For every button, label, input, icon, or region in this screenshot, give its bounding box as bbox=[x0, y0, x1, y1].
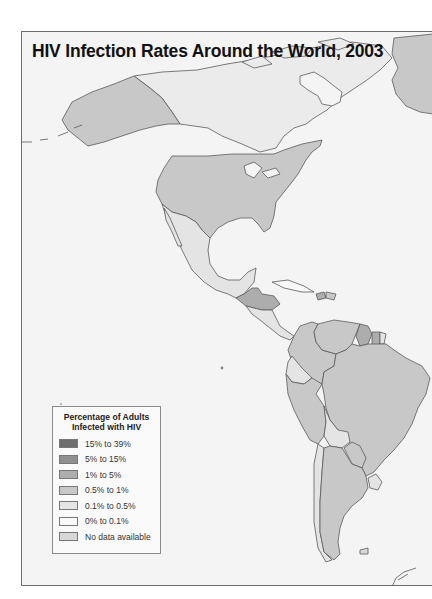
legend-swatch bbox=[59, 517, 78, 526]
legend-item: 1% to 5% bbox=[59, 467, 154, 483]
region-cuba bbox=[272, 280, 314, 292]
legend-item: 0.1% to 0.5% bbox=[59, 498, 154, 514]
region-haiti bbox=[316, 292, 326, 300]
legend-swatch bbox=[59, 501, 78, 510]
region-greenland bbox=[392, 34, 432, 114]
legend-title-line2: Infected with HIV bbox=[59, 422, 154, 432]
legend-swatch bbox=[59, 486, 78, 495]
legend-swatch bbox=[59, 439, 78, 448]
falkland-islands bbox=[360, 548, 368, 554]
legend-item: No data available bbox=[59, 529, 154, 545]
region-central-america bbox=[246, 306, 294, 340]
legend-label: 0.1% to 0.5% bbox=[85, 501, 136, 511]
legend-swatch bbox=[59, 532, 78, 541]
legend: Percentage of Adults Infected with HIV 1… bbox=[52, 406, 161, 554]
legend-label: 0.5% to 1% bbox=[85, 485, 128, 495]
map-frame: HIV Infection Rates Around the World, 20… bbox=[21, 31, 432, 586]
legend-swatch bbox=[59, 455, 78, 464]
legend-item: 0% to 0.1% bbox=[59, 514, 154, 530]
region-peru bbox=[286, 374, 326, 444]
legend-item: 5% to 15% bbox=[59, 452, 154, 468]
region-french-guiana bbox=[380, 332, 386, 344]
region-uruguay bbox=[368, 474, 382, 490]
region-dominican-republic bbox=[326, 292, 336, 300]
legend-item: 15% to 39% bbox=[59, 436, 154, 452]
legend-label: 1% to 5% bbox=[85, 470, 121, 480]
legend-title: Percentage of Adults Infected with HIV bbox=[59, 412, 154, 432]
legend-title-line1: Percentage of Adults bbox=[59, 412, 154, 422]
legend-swatch bbox=[59, 470, 78, 479]
galapagos-islands bbox=[221, 367, 224, 370]
legend-item: 0.5% to 1% bbox=[59, 483, 154, 499]
legend-label: 0% to 0.1% bbox=[85, 516, 128, 526]
legend-label: No data available bbox=[85, 532, 151, 542]
legend-label: 15% to 39% bbox=[85, 439, 131, 449]
antarctic-peninsula bbox=[392, 568, 416, 586]
legend-label: 5% to 15% bbox=[85, 454, 126, 464]
map-title: HIV Infection Rates Around the World, 20… bbox=[32, 41, 383, 62]
